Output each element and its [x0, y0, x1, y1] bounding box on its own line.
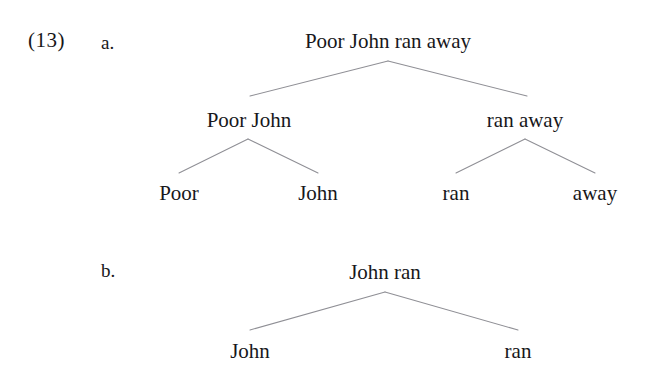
- branch-a-np-right: [248, 139, 318, 173]
- figure-canvas: (13) a. b. Poor John ran away Poor John …: [0, 0, 658, 392]
- branch-a-root-right: [388, 61, 527, 96]
- tree-a-node-poor-john: Poor John: [207, 110, 292, 131]
- item-letter-b: b.: [101, 261, 115, 280]
- tree-b-leaf-john: John: [230, 341, 270, 362]
- tree-a-leaf-john: John: [298, 183, 338, 204]
- tree-a-leaf-poor: Poor: [159, 183, 199, 204]
- branch-a-root-left: [250, 61, 388, 96]
- tree-a-leaf-ran: ran: [443, 183, 470, 204]
- branch-a-vp-left: [456, 139, 525, 173]
- item-letter-a: a.: [101, 33, 114, 52]
- branch-b-root-right: [385, 292, 518, 330]
- tree-b-leaf-ran: ran: [505, 341, 532, 362]
- tree-a-leaf-away: away: [573, 183, 617, 204]
- branch-a-np-left: [179, 139, 248, 173]
- tree-b-root-node: John ran: [349, 262, 421, 283]
- tree-a-node-ran-away: ran away: [487, 110, 563, 131]
- branch-a-vp-right: [525, 139, 595, 173]
- branch-b-root-left: [250, 292, 385, 330]
- tree-a-root-node: Poor John ran away: [305, 31, 471, 52]
- example-number: (13): [28, 30, 65, 51]
